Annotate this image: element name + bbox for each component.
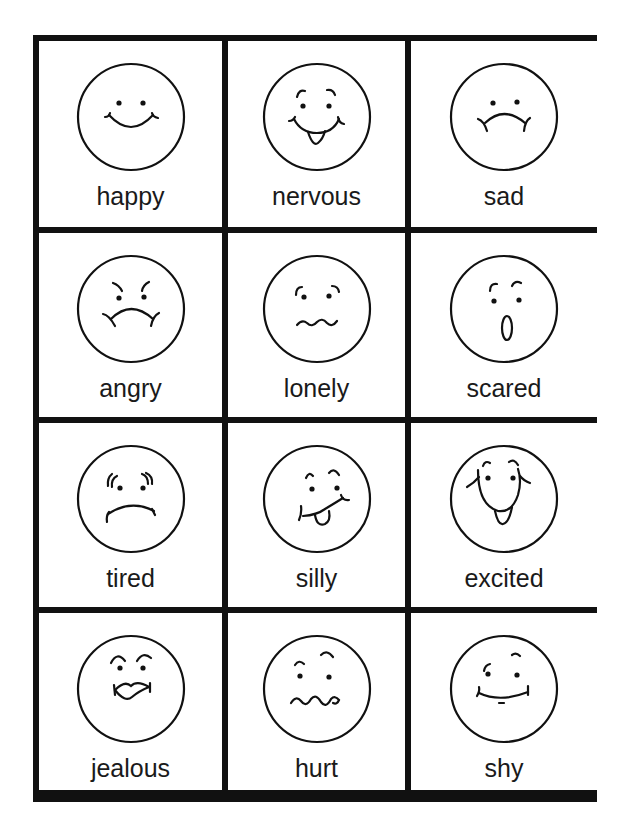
lonely-face-icon <box>261 253 373 365</box>
emotions-grid: happy nervous <box>33 35 597 802</box>
emotion-label: jealous <box>39 754 222 783</box>
excited-face-icon <box>448 443 560 555</box>
emotion-cell-hurt: hurt <box>228 613 405 790</box>
silly-face-icon <box>261 443 373 555</box>
emotion-cell-nervous: nervous <box>228 41 405 227</box>
emotion-cell-angry: angry <box>39 233 222 417</box>
emotion-label: excited <box>411 564 597 593</box>
emotion-cell-scared: scared <box>411 233 597 417</box>
emotion-label: sad <box>411 182 597 211</box>
angry-face-icon <box>75 253 187 365</box>
emotion-cell-lonely: lonely <box>228 233 405 417</box>
emotion-label: scared <box>411 374 597 403</box>
emotion-label: lonely <box>228 374 405 403</box>
emotion-label: silly <box>228 564 405 593</box>
emotion-label: happy <box>39 182 222 211</box>
hurt-face-icon <box>261 633 373 745</box>
emotion-label: shy <box>411 754 597 783</box>
emotion-label: angry <box>39 374 222 403</box>
scared-face-icon <box>448 253 560 365</box>
emotion-cell-excited: excited <box>411 423 597 607</box>
emotion-label: nervous <box>228 182 405 211</box>
emotion-cell-jealous: jealous <box>39 613 222 790</box>
emotion-cell-happy: happy <box>39 41 222 227</box>
shy-face-icon <box>448 633 560 745</box>
tired-face-icon <box>75 443 187 555</box>
emotion-cell-tired: tired <box>39 423 222 607</box>
sad-face-icon <box>448 61 560 173</box>
emotion-label: tired <box>39 564 222 593</box>
emotion-cell-shy: shy <box>411 613 597 790</box>
emotion-label: hurt <box>228 754 405 783</box>
emotion-cell-silly: silly <box>228 423 405 607</box>
jealous-face-icon <box>75 633 187 745</box>
nervous-face-icon <box>261 61 373 173</box>
emotion-cell-sad: sad <box>411 41 597 227</box>
happy-face-icon <box>75 61 187 173</box>
